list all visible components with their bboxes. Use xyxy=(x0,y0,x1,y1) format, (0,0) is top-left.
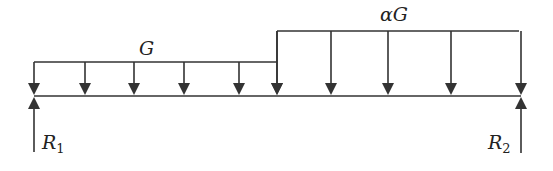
left-reaction-label: R1 xyxy=(42,133,65,155)
right-reaction-subscript: 2 xyxy=(502,141,510,156)
right-distributed-load xyxy=(271,31,527,95)
load-arrow xyxy=(271,31,283,95)
arrow-head-down-icon xyxy=(233,83,245,95)
load-arrow xyxy=(79,62,91,95)
load-arrow xyxy=(445,31,457,95)
left-reaction-arrow xyxy=(28,97,40,152)
arrow-head-down-icon xyxy=(79,83,91,95)
right-reaction-label: R2 xyxy=(488,133,511,155)
arrow-head-down-icon xyxy=(382,83,394,95)
load-arrow xyxy=(178,62,190,95)
load-arrow xyxy=(382,31,394,95)
load-arrow xyxy=(515,31,527,95)
load-arrow xyxy=(128,62,140,95)
right-load-label: αG xyxy=(380,5,408,24)
support-reactions xyxy=(28,97,527,153)
left-distributed-load xyxy=(28,62,283,95)
arrow-head-down-icon xyxy=(325,83,337,95)
arrow-head-down-icon xyxy=(515,83,527,95)
right-reaction-symbol: R xyxy=(488,131,502,153)
left-reaction-symbol: R xyxy=(42,131,56,153)
arrow-head-up-icon xyxy=(28,97,40,109)
arrow-head-down-icon xyxy=(128,83,140,95)
arrow-head-down-icon xyxy=(271,83,283,95)
arrow-head-down-icon xyxy=(445,83,457,95)
arrow-head-down-icon xyxy=(28,83,40,95)
load-arrow xyxy=(233,62,245,95)
arrow-head-up-icon xyxy=(515,97,527,109)
load-arrow xyxy=(325,31,337,95)
beam-diagram xyxy=(0,0,553,171)
left-reaction-subscript: 1 xyxy=(56,141,64,156)
arrow-head-down-icon xyxy=(178,83,190,95)
load-arrow xyxy=(28,62,40,95)
right-reaction-arrow xyxy=(515,97,527,153)
left-load-label: G xyxy=(139,39,154,58)
